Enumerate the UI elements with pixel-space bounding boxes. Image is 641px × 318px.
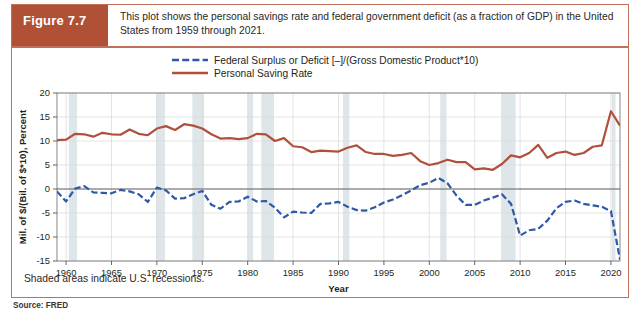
recession-band	[343, 93, 349, 261]
recession-band	[501, 93, 516, 261]
legend-label: Personal Saving Rate	[214, 68, 313, 79]
recession-band	[248, 93, 253, 261]
y-tick-label: 10	[40, 135, 50, 146]
x-tick-label: 1990	[328, 267, 349, 278]
line-chart: Federal Surplus or Deficit [–]/(Gross Do…	[12, 48, 628, 297]
recession-band	[69, 93, 77, 261]
figure-number-badge: Figure 7.7	[12, 5, 108, 46]
recession-band	[261, 93, 274, 261]
plot-panel: Federal Surplus or Deficit [–]/(Gross Do…	[12, 48, 628, 297]
x-tick-label: 2015	[555, 267, 576, 278]
y-tick-label: 0	[45, 183, 50, 194]
recession-band	[440, 93, 446, 261]
figure-caption: Shaded areas indicate U.S. recessions.	[24, 273, 204, 284]
figure-header: Figure 7.7 This plot shows the personal …	[12, 5, 628, 46]
x-tick-label: 2000	[419, 267, 440, 278]
y-tick-label: -15	[36, 255, 50, 266]
x-tick-label: 2005	[464, 267, 485, 278]
source-note: Source: FRED	[13, 301, 68, 310]
y-tick-label: -10	[36, 231, 50, 242]
figure-description: This plot shows the personal savings rat…	[120, 10, 618, 37]
y-tick-label: 15	[40, 111, 50, 122]
y-tick-label: -5	[42, 207, 50, 218]
legend-label: Federal Surplus or Deficit [–]/(Gross Do…	[214, 55, 478, 66]
figure-number-label: Figure 7.7	[23, 13, 86, 28]
x-tick-label: 1995	[373, 267, 394, 278]
x-axis-label: Year	[328, 283, 349, 294]
y-tick-label: 5	[45, 159, 50, 170]
x-tick-label: 1985	[283, 267, 304, 278]
x-tick-label: 1980	[237, 267, 258, 278]
x-tick-label: 2020	[600, 267, 621, 278]
recession-band	[156, 93, 165, 261]
x-tick-label: 2010	[510, 267, 531, 278]
y-axis-label: Mil. of $/(Bil. of $*10), Percent	[17, 109, 28, 244]
figure-box: Figure 7.7 This plot shows the personal …	[11, 4, 629, 298]
y-tick-label: 20	[40, 87, 50, 98]
